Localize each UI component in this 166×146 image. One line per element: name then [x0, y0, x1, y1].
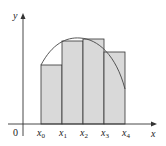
svg-text:x2: x2: [79, 127, 88, 140]
svg-text:x1: x1: [58, 127, 67, 140]
svg-text:x4: x4: [121, 127, 130, 140]
rectangle-1: [41, 65, 62, 124]
partition-label-x4: x4: [121, 127, 130, 140]
x-axis-label: x: [150, 128, 156, 139]
partition-label-x1: x1: [58, 127, 67, 140]
riemann-sum-diagram: y x 0 x0 x1 x2 x3 x4: [0, 0, 166, 146]
partition-label-x0: x0: [36, 127, 45, 140]
partition-label-x2: x2: [79, 127, 88, 140]
x-axis-arrow-icon: [151, 122, 157, 127]
origin-label: 0: [13, 127, 18, 138]
partition-label-x3: x3: [100, 127, 109, 140]
rectangle-3: [83, 39, 104, 124]
y-axis-arrow-icon: [21, 13, 26, 19]
rectangle-2: [62, 41, 83, 124]
svg-text:x0: x0: [36, 127, 45, 140]
svg-text:x3: x3: [100, 127, 109, 140]
y-axis-label: y: [12, 10, 18, 21]
